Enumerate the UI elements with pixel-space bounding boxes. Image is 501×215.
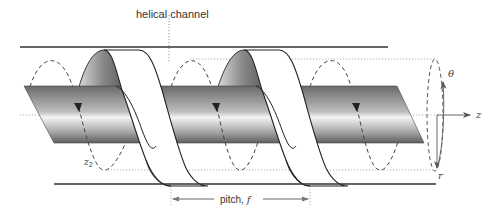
theta-axis-label: θ <box>448 68 454 79</box>
flight-back-humps <box>79 50 266 87</box>
z2-subscript: 2 <box>89 161 93 168</box>
helical-channel-label: helical channel <box>136 8 209 20</box>
diagram-canvas: helical channel pitch, f z2 z r θ <box>0 0 501 215</box>
r-axis-label: r <box>438 170 444 181</box>
z-axis-label: z <box>475 109 482 120</box>
shaft <box>24 86 424 143</box>
pitch-text: pitch, <box>220 194 247 205</box>
pitch-symbol: f <box>246 194 253 205</box>
helical-channel-diagram: helical channel pitch, f z2 z r θ <box>0 0 501 215</box>
pitch-label: pitch, f <box>220 194 253 205</box>
z2-label: z2 <box>83 157 93 168</box>
